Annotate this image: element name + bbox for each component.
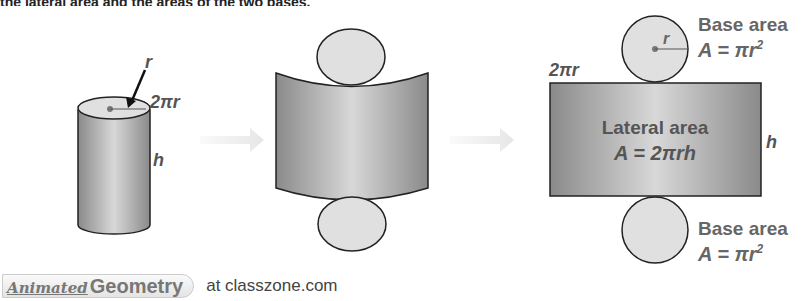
cylinder-figure (78, 70, 150, 234)
lateral-area-formula: A = 2πrh (600, 142, 710, 165)
net-height-label: h (766, 132, 777, 153)
animated-geometry-badge[interactable]: Animated Geometry (2, 274, 194, 298)
footer: Animated Geometry at classzone.com (2, 274, 338, 298)
badge-word-text: Geometry (90, 275, 183, 298)
top-base-title: Base area (698, 14, 788, 36)
circumference-label: 2πr (150, 92, 180, 113)
bottom-base-title: Base area (698, 218, 788, 240)
lateral-area-title: Lateral area (600, 117, 710, 139)
radius-label: r (145, 52, 152, 73)
arrow-right-icon (200, 128, 264, 152)
width-label: 2πr (549, 60, 579, 81)
top-base-formula: A = πr2 (698, 38, 763, 62)
top-base-radius-label: r (663, 30, 669, 48)
height-label: h (153, 150, 164, 171)
classzone-link[interactable]: at classzone.com (206, 276, 337, 296)
bottom-base-formula: A = πr2 (698, 242, 763, 266)
unrolling-cylinder-figure (276, 29, 428, 251)
badge-script-text: Animated (7, 279, 88, 297)
arrow-right-icon (450, 128, 514, 152)
